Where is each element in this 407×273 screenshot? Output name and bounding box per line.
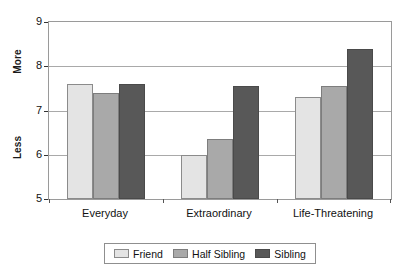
category-label-extraordinary: Extraordinary [162, 207, 276, 219]
legend-entry-friend[interactable]: Friend [114, 248, 163, 260]
legend-entry-half-sibling[interactable]: Half Sibling [173, 248, 245, 260]
y-tick-label-9: 9 [26, 16, 42, 27]
y-tick-mark-8 [44, 66, 48, 67]
y-tick-mark-6 [44, 155, 48, 156]
legend-swatch-sibling-icon [255, 249, 270, 258]
y-axis-anchor-more: More [12, 45, 23, 79]
category-tick-1 [163, 199, 164, 203]
bar-sibling-everyday [119, 84, 145, 199]
bar-friend-everyday [67, 84, 93, 199]
bar-friend-extraordinary [181, 155, 207, 199]
category-tick-2 [277, 199, 278, 203]
bar-sibling-extraordinary [233, 86, 259, 199]
category-label-everyday: Everyday [48, 207, 162, 219]
plot-area [48, 21, 392, 200]
y-tick-mark-7 [44, 111, 48, 112]
y-tick-label-7: 7 [26, 105, 42, 116]
legend-entry-sibling[interactable]: Sibling [255, 248, 306, 260]
legend-swatch-friend-icon [114, 249, 129, 258]
bar-chart: More Less 56789 EverydayExtraordinaryLif… [0, 0, 407, 273]
y-tick-label-5: 5 [26, 193, 42, 204]
bar-half-sibling-life-threatening [321, 86, 347, 199]
legend-label-sibling: Sibling [274, 248, 306, 260]
y-tick-label-6: 6 [26, 149, 42, 160]
bar-half-sibling-everyday [93, 93, 119, 199]
y-axis-anchor-less: Less [12, 131, 23, 165]
category-tick-end [390, 199, 391, 203]
category-label-life-threatening: Life-Threatening [276, 207, 390, 219]
gridline-8 [49, 66, 391, 67]
legend-swatch-half-sibling-icon [173, 249, 188, 258]
legend: FriendHalf SiblingSibling [104, 243, 316, 264]
bar-sibling-life-threatening [347, 49, 373, 199]
y-tick-mark-5 [44, 199, 48, 200]
bar-half-sibling-extraordinary [207, 139, 233, 199]
legend-label-half-sibling: Half Sibling [192, 248, 245, 260]
y-tick-label-8: 8 [26, 60, 42, 71]
bar-friend-life-threatening [295, 97, 321, 199]
category-tick-start [49, 199, 50, 203]
legend-label-friend: Friend [133, 248, 163, 260]
y-tick-mark-9 [44, 22, 48, 23]
